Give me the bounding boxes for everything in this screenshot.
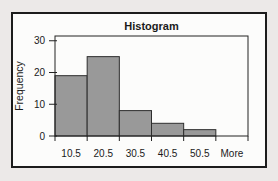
histogram-bar <box>184 130 216 136</box>
x-tick-label: 50.5 <box>190 148 210 159</box>
x-tick-label: More <box>221 148 244 159</box>
histogram-chart: Histogram Frequency 010203010.520.530.54… <box>13 14 265 166</box>
x-tick-label: 40.5 <box>158 148 178 159</box>
x-tick-label: 10.5 <box>61 148 81 159</box>
chart-outer-frame: Histogram Frequency 010203010.520.530.54… <box>11 12 267 168</box>
x-tick-label: 20.5 <box>94 148 114 159</box>
histogram-bar <box>55 76 87 136</box>
y-tick-label: 10 <box>34 99 46 110</box>
y-tick-label: 30 <box>34 35 46 46</box>
histogram-bar <box>152 123 184 136</box>
histogram-bar <box>119 111 151 136</box>
histogram-bar <box>87 57 119 136</box>
x-tick-label: 30.5 <box>126 148 146 159</box>
chart-title: Histogram <box>124 20 179 32</box>
y-axis-title: Frequency <box>13 60 25 110</box>
plot-area: 010203010.520.530.540.550.5More <box>34 35 248 159</box>
y-tick-label: 20 <box>34 67 46 78</box>
y-tick-label: 0 <box>39 131 45 142</box>
